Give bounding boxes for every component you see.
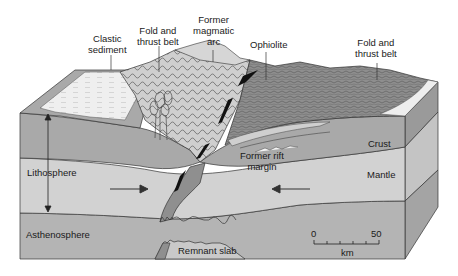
label-line: thrust belt xyxy=(355,48,397,59)
label-line: Clastic xyxy=(88,33,127,44)
scale-start-label: 0 xyxy=(311,228,316,239)
label-line: Fold and xyxy=(137,25,179,36)
label-mantle: Mantle xyxy=(367,169,396,180)
block-diagram: Clastic sediment Fold and thrust belt Fo… xyxy=(0,0,458,276)
label-former-magmatic-arc: Former magmatic arc xyxy=(193,14,234,47)
label-line: Former rift xyxy=(240,150,284,161)
label-fold-thrust-right: Fold and thrust belt xyxy=(355,37,397,59)
label-ophiolite: Ophiolite xyxy=(250,39,288,50)
label-clastic-sediment: Clastic sediment xyxy=(88,33,127,55)
label-remnant-slab: Remnant slab xyxy=(178,245,237,256)
label-line: magmatic xyxy=(193,25,234,36)
label-line: arc xyxy=(193,36,234,47)
label-asthenosphere: Asthenosphere xyxy=(26,229,90,240)
label-line: sediment xyxy=(88,44,127,55)
label-crust: Crust xyxy=(368,138,391,149)
label-lithosphere: Lithosphere xyxy=(27,167,77,178)
label-former-rift-margin: Former rift margin xyxy=(240,150,284,172)
label-line: Former xyxy=(193,14,234,25)
label-line: Fold and xyxy=(355,37,397,48)
label-line: thrust belt xyxy=(137,36,179,47)
scale-end-label: 50 xyxy=(371,228,382,239)
label-line: margin xyxy=(240,161,284,172)
scale-unit-label: km xyxy=(341,247,354,258)
label-fold-thrust-left: Fold and thrust belt xyxy=(137,25,179,47)
